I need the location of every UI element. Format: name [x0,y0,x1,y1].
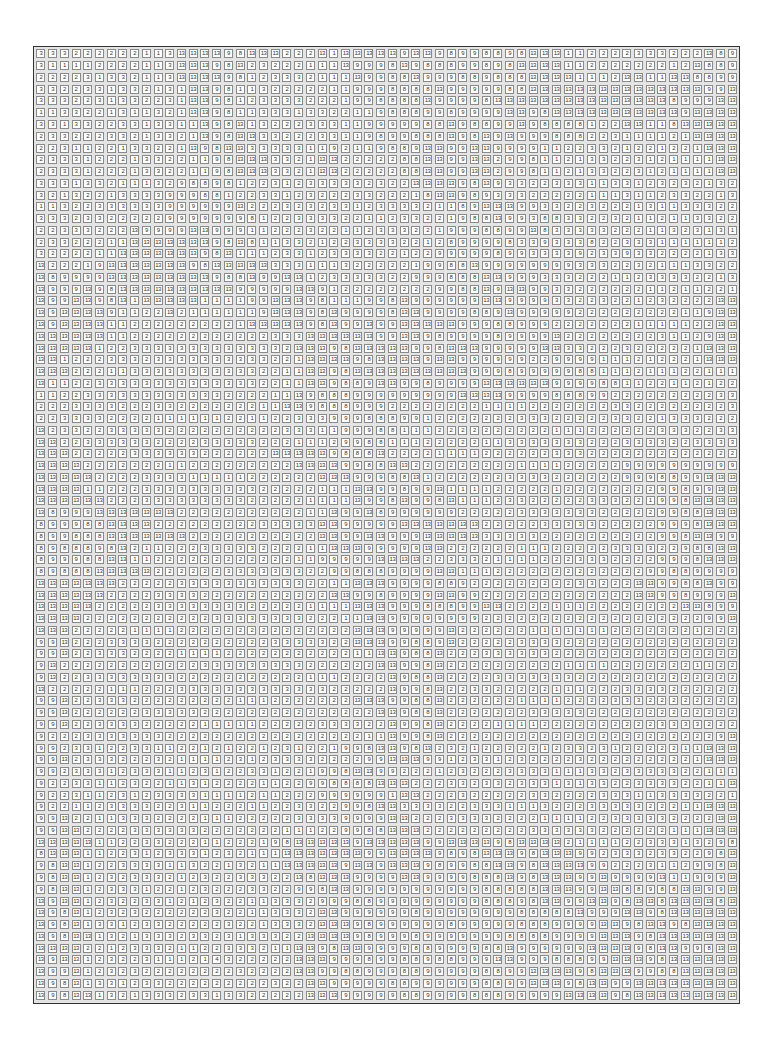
grid-cell[interactable]: 2 [715,377,727,389]
grid-cell[interactable]: 3 [234,613,246,625]
grid-cell[interactable]: 2 [70,660,82,672]
grid-cell[interactable]: 1 [527,719,539,731]
grid-cell[interactable]: 8 [715,60,727,72]
grid-cell[interactable]: 2 [281,495,293,507]
grid-cell[interactable]: 2 [258,495,270,507]
grid-cell[interactable]: 3 [152,789,164,801]
grid-cell[interactable]: 1 [340,295,352,307]
grid-cell[interactable]: 2 [293,730,305,742]
grid-cell[interactable]: 8 [410,907,422,919]
grid-cell[interactable]: 9 [633,872,645,884]
grid-cell[interactable]: 13 [70,601,82,613]
grid-cell[interactable]: 2 [703,283,715,295]
grid-cell[interactable]: 8 [504,83,516,95]
grid-cell[interactable]: 13 [621,95,633,107]
grid-cell[interactable]: 1 [316,425,328,437]
grid-cell[interactable]: 9 [47,648,59,660]
grid-cell[interactable]: 2 [140,589,152,601]
grid-cell[interactable]: 9 [387,919,399,931]
grid-cell[interactable]: 1 [234,83,246,95]
grid-cell[interactable]: 3 [117,425,129,437]
grid-cell[interactable]: 2 [574,495,586,507]
grid-cell[interactable]: 3 [211,366,223,378]
grid-cell[interactable]: 2 [492,707,504,719]
grid-cell[interactable]: 9 [375,495,387,507]
grid-cell[interactable]: 1 [211,307,223,319]
grid-cell[interactable]: 9 [469,919,481,931]
grid-cell[interactable]: 13 [140,530,152,542]
grid-cell[interactable]: 2 [480,625,492,637]
grid-cell[interactable]: 13 [35,977,47,989]
grid-cell[interactable]: 3 [398,224,410,236]
grid-cell[interactable]: 3 [293,330,305,342]
grid-cell[interactable]: 2 [410,448,422,460]
grid-cell[interactable]: 2 [469,777,481,789]
grid-cell[interactable]: 3 [598,766,610,778]
grid-cell[interactable]: 8 [223,154,235,166]
grid-cell[interactable]: 2 [340,672,352,684]
grid-cell[interactable]: 8 [316,883,328,895]
grid-cell[interactable]: 2 [223,330,235,342]
grid-cell[interactable]: 2 [340,730,352,742]
grid-cell[interactable]: 2 [469,648,481,660]
grid-cell[interactable]: 9 [445,377,457,389]
grid-cell[interactable]: 2 [644,825,656,837]
grid-cell[interactable]: 8 [70,530,82,542]
grid-cell[interactable]: 1 [328,283,340,295]
grid-cell[interactable]: 13 [58,954,70,966]
grid-cell[interactable]: 2 [328,754,340,766]
grid-cell[interactable]: 3 [562,448,574,460]
grid-cell[interactable]: 13 [656,977,668,989]
grid-cell[interactable]: 3 [668,425,680,437]
grid-cell[interactable]: 9 [398,119,410,131]
grid-cell[interactable]: 3 [105,872,117,884]
grid-cell[interactable]: 9 [480,342,492,354]
grid-cell[interactable]: 2 [586,648,598,660]
grid-cell[interactable]: 2 [82,366,94,378]
grid-cell[interactable]: 2 [129,613,141,625]
grid-cell[interactable]: 2 [164,883,176,895]
grid-cell[interactable]: 2 [164,319,176,331]
grid-cell[interactable]: 9 [340,954,352,966]
grid-cell[interactable]: 8 [551,130,563,142]
grid-cell[interactable]: 2 [340,166,352,178]
grid-cell[interactable]: 2 [586,813,598,825]
grid-cell[interactable]: 9 [562,930,574,942]
grid-cell[interactable]: 1 [164,860,176,872]
grid-cell[interactable]: 8 [433,495,445,507]
grid-cell[interactable]: 2 [621,825,633,837]
grid-cell[interactable]: 13 [351,577,363,589]
grid-cell[interactable]: 8 [539,107,551,119]
grid-cell[interactable]: 2 [305,895,317,907]
grid-cell[interactable]: 3 [293,660,305,672]
grid-cell[interactable]: 2 [35,130,47,142]
grid-cell[interactable]: 9 [422,72,434,84]
grid-cell[interactable]: 3 [504,648,516,660]
grid-cell[interactable]: 13 [492,860,504,872]
grid-cell[interactable]: 9 [316,966,328,978]
grid-cell[interactable]: 3 [609,130,621,142]
grid-cell[interactable]: 2 [269,672,281,684]
grid-cell[interactable]: 13 [316,330,328,342]
grid-cell[interactable]: 2 [293,601,305,613]
grid-cell[interactable]: 13 [398,460,410,472]
grid-cell[interactable]: 1 [680,213,692,225]
grid-cell[interactable]: 3 [656,295,668,307]
grid-cell[interactable]: 3 [152,589,164,601]
grid-cell[interactable]: 13 [691,60,703,72]
grid-cell[interactable]: 3 [105,354,117,366]
grid-cell[interactable]: 13 [58,695,70,707]
grid-cell[interactable]: 13 [644,83,656,95]
grid-cell[interactable]: 3 [164,83,176,95]
grid-cell[interactable]: 3 [117,189,129,201]
grid-cell[interactable]: 3 [492,189,504,201]
grid-cell[interactable]: 2 [422,401,434,413]
grid-cell[interactable]: 3 [621,695,633,707]
grid-cell[interactable]: 8 [35,519,47,531]
grid-cell[interactable]: 2 [621,448,633,460]
grid-cell[interactable]: 2 [586,472,598,484]
grid-cell[interactable]: 3 [281,425,293,437]
grid-cell[interactable]: 1 [305,142,317,154]
grid-cell[interactable]: 2 [164,566,176,578]
grid-cell[interactable]: 9 [433,836,445,848]
